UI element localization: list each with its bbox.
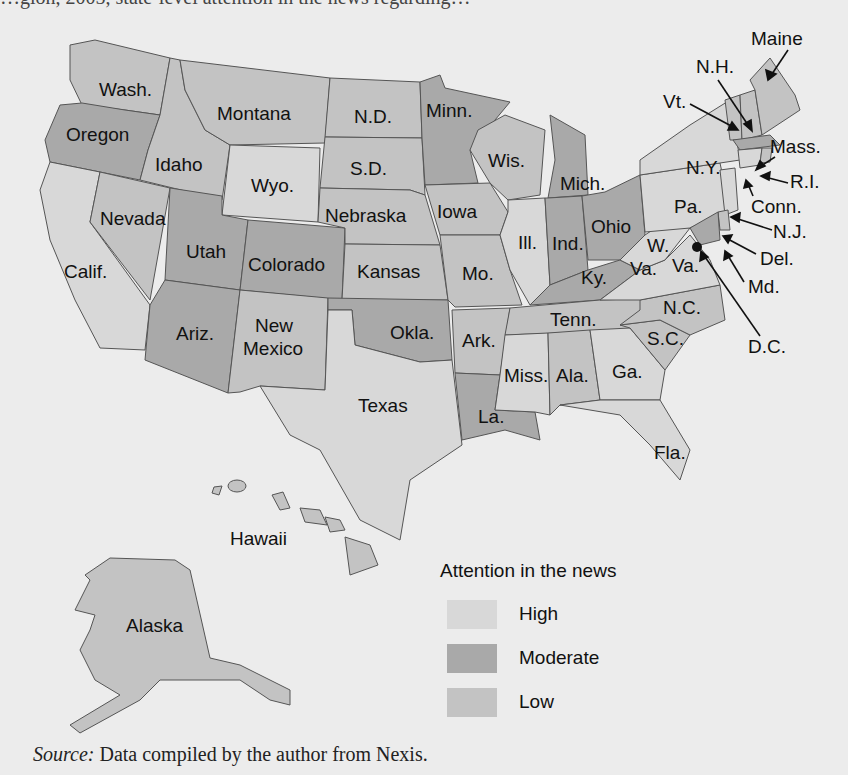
- us-map: Wash. Oregon Calif. Idaho Nevada Montana…: [0, 0, 848, 775]
- legend-item-moderate: Moderate: [440, 636, 616, 680]
- label-idaho: Idaho: [155, 154, 203, 175]
- label-ark: Ark.: [462, 330, 496, 351]
- label-sc: S.C.: [647, 328, 684, 349]
- label-utah: Utah: [186, 241, 226, 262]
- state-del[interactable]: [718, 210, 730, 230]
- label-pa: Pa.: [674, 196, 703, 217]
- state-alaska[interactable]: [70, 558, 290, 733]
- legend-label-low: Low: [519, 691, 554, 713]
- label-nc: N.C.: [663, 297, 701, 318]
- label-texas: Texas: [358, 395, 408, 416]
- label-md: Md.: [748, 276, 780, 297]
- label-nd: N.D.: [354, 106, 392, 127]
- label-mo: Mo.: [462, 263, 494, 284]
- label-nj: N.J.: [773, 221, 807, 242]
- label-nm-2: Mexico: [243, 338, 303, 359]
- label-ky: Ky.: [581, 267, 607, 288]
- label-sd: S.D.: [350, 158, 387, 179]
- legend-item-high: High: [440, 592, 616, 636]
- label-nevada: Nevada: [100, 208, 166, 229]
- label-wv-2: Va.: [630, 258, 657, 279]
- label-wyo: Wyo.: [251, 175, 294, 196]
- label-ind: Ind.: [552, 233, 584, 254]
- label-ala: Ala.: [556, 365, 589, 386]
- swatch-high: [447, 600, 497, 629]
- label-iowa: Iowa: [437, 201, 478, 222]
- source-prefix: Source:: [33, 743, 94, 765]
- label-colorado: Colorado: [248, 254, 325, 275]
- source-text: Data compiled by the author from Nexis.: [94, 743, 427, 765]
- label-okla: Okla.: [390, 322, 434, 343]
- label-maine: Maine: [751, 28, 803, 49]
- label-hawaii: Hawaii: [230, 528, 287, 549]
- label-va: Va.: [672, 255, 699, 276]
- label-fla: Fla.: [654, 442, 686, 463]
- legend-label-moderate: Moderate: [519, 647, 599, 669]
- label-ill: Ill.: [518, 232, 537, 253]
- swatch-moderate: [447, 644, 497, 673]
- label-minn: Minn.: [426, 100, 472, 121]
- label-del: Del.: [760, 248, 794, 269]
- swatch-low: [447, 688, 497, 717]
- label-conn: Conn.: [751, 196, 802, 217]
- label-la: La.: [478, 406, 504, 427]
- label-kansas: Kansas: [357, 261, 420, 282]
- label-mass: Mass.: [770, 136, 821, 157]
- legend-label-high: High: [519, 603, 558, 625]
- label-miss: Miss.: [504, 365, 548, 386]
- label-wv-1: W.: [647, 235, 669, 256]
- source-note: Source: Data compiled by the author from…: [33, 743, 428, 766]
- label-ri: R.I.: [790, 171, 820, 192]
- label-ohio: Ohio: [591, 216, 631, 237]
- label-nh: N.H.: [696, 56, 734, 77]
- label-ariz: Ariz.: [176, 323, 214, 344]
- label-ny: N.Y.: [686, 157, 721, 178]
- label-mich: Mich.: [560, 173, 605, 194]
- legend-title: Attention in the news: [440, 560, 616, 582]
- label-ga: Ga.: [612, 361, 643, 382]
- label-nebraska: Nebraska: [325, 205, 407, 226]
- label-tenn: Tenn.: [550, 309, 596, 330]
- label-vt: Vt.: [663, 91, 686, 112]
- label-wis: Wis.: [488, 150, 525, 171]
- label-oregon: Oregon: [66, 124, 129, 145]
- state-fla[interactable]: [560, 400, 690, 480]
- label-dc: D.C.: [748, 336, 786, 357]
- label-nm-1: New: [255, 315, 293, 336]
- label-montana: Montana: [217, 103, 291, 124]
- map-legend: Attention in the news High Moderate Low: [440, 560, 616, 724]
- legend-item-low: Low: [440, 680, 616, 724]
- label-alaska: Alaska: [126, 615, 183, 636]
- label-calif: Calif.: [64, 261, 107, 282]
- label-wash: Wash.: [99, 79, 152, 100]
